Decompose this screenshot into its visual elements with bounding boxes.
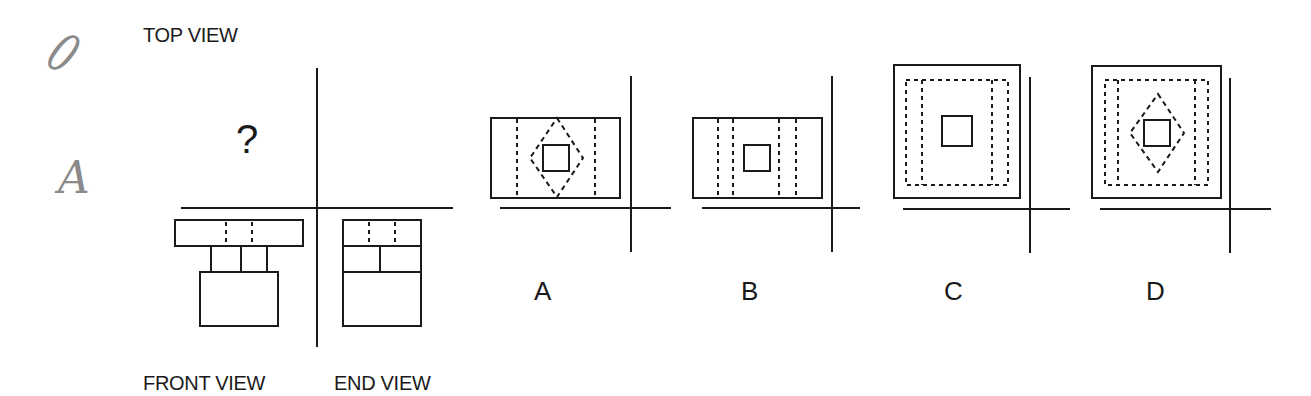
option-b-drawing[interactable]: [693, 76, 860, 252]
option-c-drawing[interactable]: [894, 65, 1070, 253]
orthographic-drawing: [0, 0, 1311, 396]
option-a-drawing[interactable]: [491, 76, 671, 252]
question-view-axes: [181, 68, 453, 347]
front-view: [175, 220, 303, 326]
option-d-drawing[interactable]: [1092, 66, 1271, 253]
end-view: [343, 220, 421, 326]
